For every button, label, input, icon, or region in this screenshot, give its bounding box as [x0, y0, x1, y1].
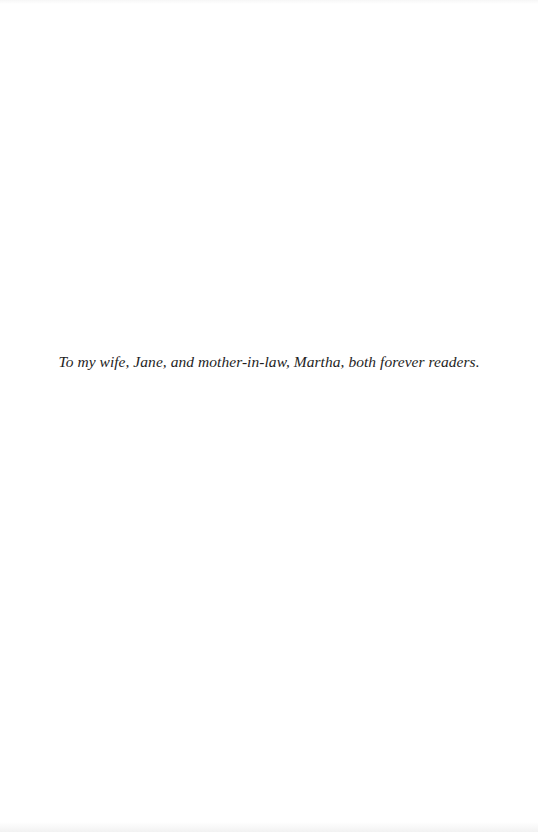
- dedication-page: To my wife, Jane, and mother-in-law, Mar…: [0, 0, 538, 832]
- page-bottom-edge: [0, 822, 538, 832]
- dedication-text: To my wife, Jane, and mother-in-law, Mar…: [0, 352, 538, 372]
- page-top-edge: [0, 0, 538, 4]
